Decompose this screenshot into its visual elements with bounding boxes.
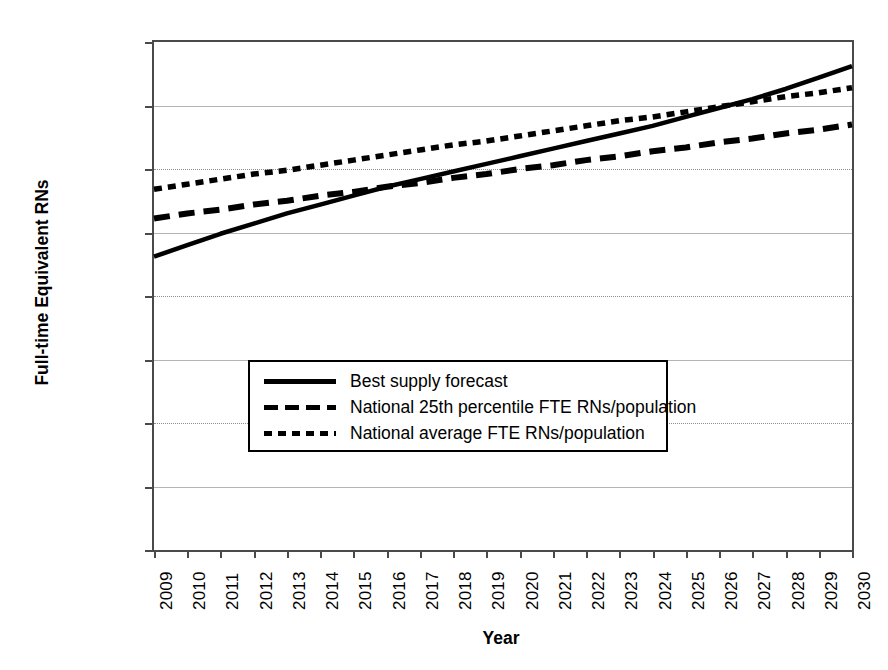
legend-item-label: National 25th percentile FTE RNs/populat… <box>350 397 696 417</box>
y-tick-mark <box>145 296 154 298</box>
legend-line-swatch-dashed-icon <box>264 400 336 414</box>
legend-item-label: Best supply forecast <box>350 371 508 391</box>
y-tick-mark <box>145 42 154 44</box>
x-tick-mark <box>320 550 322 558</box>
series-line-solid <box>154 66 852 257</box>
y-tick-mark <box>145 169 154 171</box>
x-tick-label: 2028 <box>790 571 807 610</box>
x-tick-mark <box>420 550 422 558</box>
x-tick-label: 2029 <box>823 571 840 610</box>
y-tick-mark <box>145 423 154 425</box>
x-tick-label: 2024 <box>657 571 674 610</box>
x-tick-mark <box>520 550 522 558</box>
x-tick-mark <box>486 550 488 558</box>
x-tick-label: 2018 <box>457 571 474 610</box>
x-tick-label: 2023 <box>623 571 640 610</box>
x-tick-label: 2014 <box>324 571 341 610</box>
legend-item[interactable]: National average FTE RNs/population <box>250 420 666 446</box>
x-tick-mark <box>553 550 555 558</box>
x-tick-mark <box>719 550 721 558</box>
x-tick-label: 2021 <box>557 571 574 610</box>
x-tick-label: 2019 <box>490 571 507 610</box>
x-tick-mark <box>819 550 821 558</box>
y-tick-mark <box>145 233 154 235</box>
x-tick-mark <box>254 550 256 558</box>
y-tick-mark <box>145 487 154 489</box>
y-tick-mark <box>145 550 154 552</box>
x-tick-label: 2010 <box>191 571 208 610</box>
x-tick-label: 2030 <box>856 571 873 610</box>
x-axis-title: Year <box>152 628 850 649</box>
x-tick-label: 2026 <box>723 571 740 610</box>
x-tick-mark <box>852 550 854 558</box>
x-tick-mark <box>287 550 289 558</box>
x-tick-label: 2022 <box>590 571 607 610</box>
legend-item-label: National average FTE RNs/population <box>350 423 645 443</box>
y-tick-mark <box>145 106 154 108</box>
y-tick-mark <box>145 360 154 362</box>
x-tick-mark <box>353 550 355 558</box>
x-tick-label: 2027 <box>756 571 773 610</box>
x-tick-label: 2016 <box>391 571 408 610</box>
data-series-group <box>154 42 852 550</box>
x-tick-mark <box>187 550 189 558</box>
x-tick-mark <box>786 550 788 558</box>
x-tick-label: 2011 <box>224 573 241 610</box>
x-tick-label: 2012 <box>258 571 275 610</box>
x-tick-mark <box>586 550 588 558</box>
x-tick-mark <box>752 550 754 558</box>
x-tick-mark <box>619 550 621 558</box>
x-tick-label: 2017 <box>424 571 441 610</box>
legend-item[interactable]: National 25th percentile FTE RNs/populat… <box>250 394 666 420</box>
x-tick-mark <box>653 550 655 558</box>
chart-figure: Full-time Equivalent RNs 400,000350,0003… <box>0 0 888 670</box>
x-tick-label: 2015 <box>357 571 374 610</box>
x-tick-label: 2020 <box>524 571 541 610</box>
x-tick-label: 2009 <box>158 571 175 610</box>
chart-legend: Best supply forecastNational 25th percen… <box>248 360 668 452</box>
x-tick-label: 2013 <box>291 571 308 610</box>
y-axis-title: Full-time Equivalent RNs <box>32 133 53 433</box>
legend-line-swatch-solid-icon <box>264 374 336 388</box>
legend-item[interactable]: Best supply forecast <box>250 368 666 394</box>
x-tick-mark <box>387 550 389 558</box>
x-tick-label: 2025 <box>690 571 707 610</box>
x-tick-mark <box>154 550 156 558</box>
x-tick-mark <box>453 550 455 558</box>
legend-line-swatch-dotted-icon <box>264 426 336 440</box>
x-tick-mark <box>220 550 222 558</box>
x-tick-mark <box>686 550 688 558</box>
plot-area <box>152 40 854 552</box>
